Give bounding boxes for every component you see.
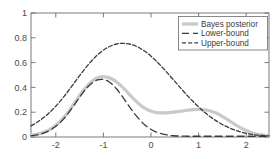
chart-figure: 0 0.2 0.4 0.6 0.8 1 -2 -1 0 1 2 Bayes p	[0, 0, 280, 159]
x-tick-label: -1	[99, 140, 107, 150]
y-tick-label: 0.8	[14, 33, 27, 43]
y-tick-label: 0.2	[14, 107, 27, 117]
y-tick-label: 0	[22, 132, 27, 142]
x-tick-label: 1	[196, 140, 201, 150]
legend-label-bayes-posterior: Bayes posterior	[201, 20, 258, 29]
y-tick-label: 1	[22, 8, 27, 18]
y-tick-label: 0.6	[14, 58, 27, 68]
x-tick-label: -2	[52, 140, 60, 150]
x-axis-tick-labels: -2 -1 0 1 2	[52, 140, 249, 150]
x-tick-label: 2	[244, 140, 249, 150]
line-chart: 0 0.2 0.4 0.6 0.8 1 -2 -1 0 1 2 Bayes p	[0, 0, 280, 159]
legend: Bayes posterior Lower-bound Upper-bound	[179, 17, 268, 51]
y-axis-tick-labels: 0 0.2 0.4 0.6 0.8 1	[14, 8, 27, 142]
legend-label-lower-bound: Lower-bound	[201, 29, 249, 38]
x-tick-label: 0	[148, 140, 153, 150]
legend-label-upper-bound: Upper-bound	[201, 39, 249, 48]
y-tick-label: 0.4	[14, 83, 27, 93]
